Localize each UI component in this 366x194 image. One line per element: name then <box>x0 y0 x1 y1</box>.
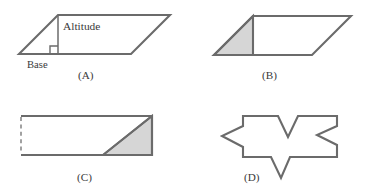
base-label: Base <box>27 59 48 70</box>
right-angle-icon <box>50 46 58 54</box>
panel-a-label: (A) <box>78 69 94 82</box>
panel-c-label: (C) <box>77 171 92 184</box>
panel-a-group: Altitude Base (A) <box>19 15 170 82</box>
irregular-polygon-d-outline <box>222 116 337 178</box>
panel-d-label: (D) <box>244 171 260 184</box>
geometry-figure-svg: Altitude Base (A) (B) (C) (D) <box>0 0 366 194</box>
figure-sheet: Altitude Base (A) (B) (C) (D) <box>0 0 366 194</box>
altitude-label: Altitude <box>63 20 100 32</box>
panel-c-group: (C) <box>21 116 152 184</box>
panel-b-group: (B) <box>214 16 351 82</box>
panel-d-group: (D) <box>222 116 337 184</box>
panel-b-label: (B) <box>262 69 277 82</box>
